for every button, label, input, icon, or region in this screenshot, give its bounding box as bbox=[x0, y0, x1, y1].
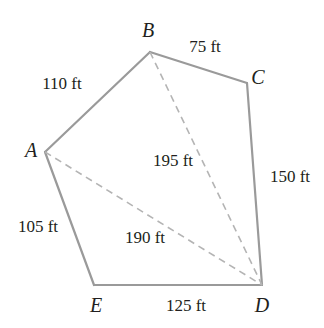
vertex-label-E: E bbox=[90, 295, 102, 315]
side-length-D-E: 125 ft bbox=[166, 297, 206, 314]
diagonal-length-B-D: 195 ft bbox=[153, 152, 193, 169]
diagonal-length-A-D: 190 ft bbox=[125, 229, 165, 246]
vertex-label-D: D bbox=[255, 295, 269, 315]
edge-C-D bbox=[247, 83, 262, 285]
edge-A-B bbox=[45, 52, 150, 152]
side-length-A-B: 110 ft bbox=[42, 75, 82, 92]
side-length-C-D: 150 ft bbox=[270, 168, 310, 185]
side-length-E-A: 105 ft bbox=[18, 218, 58, 235]
vertex-label-B: B bbox=[142, 20, 154, 40]
vertex-label-A: A bbox=[25, 140, 37, 160]
vertex-label-C: C bbox=[251, 67, 264, 87]
side-length-B-C: 75 ft bbox=[189, 38, 221, 55]
edge-B-C bbox=[150, 52, 247, 83]
